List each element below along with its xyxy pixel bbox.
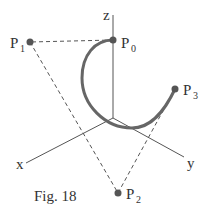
label-p1-main: P: [10, 35, 18, 51]
label-p3-sub: 3: [193, 90, 198, 101]
z-axis-label: z: [103, 7, 110, 23]
point-p0: [110, 37, 117, 44]
point-p2: [115, 190, 122, 197]
label-p3: P 3: [183, 82, 198, 101]
label-p0-main: P: [121, 35, 129, 51]
figure-caption: Fig. 18: [34, 188, 77, 204]
label-p0-sub: 0: [131, 43, 136, 54]
label-p2-main: P: [126, 186, 134, 202]
x-axis-label: x: [16, 156, 24, 172]
label-p0: P 0: [121, 35, 136, 54]
x-axis: [26, 118, 113, 163]
label-p3-main: P: [183, 82, 191, 98]
label-p1: P 1: [10, 35, 25, 54]
point-p3: [172, 86, 179, 93]
segment-p1-p2: [30, 42, 118, 193]
bezier-curve: [82, 40, 175, 128]
axes: [26, 15, 184, 163]
y-axis-label: y: [187, 155, 195, 171]
label-p2-sub: 2: [136, 194, 141, 205]
label-p1-sub: 1: [20, 43, 25, 54]
point-p1: [27, 39, 34, 46]
label-p2: P 2: [126, 186, 141, 205]
bezier-curve-figure: z x y P 0 P 1 P 2 P 3 Fig. 18: [0, 0, 206, 210]
